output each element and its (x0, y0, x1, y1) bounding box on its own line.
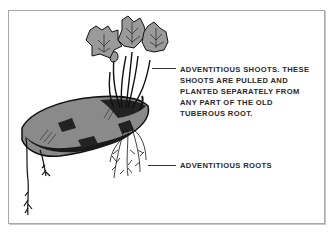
shoots-label-line: TUBEROUS ROOT. (180, 108, 309, 119)
shoots-label-line: ANY PART OF THE OLD (180, 97, 309, 108)
tuber-icon (22, 96, 149, 156)
shoots-label-line: ADVENTITIOUS SHOOTS. THESE (180, 64, 309, 75)
roots-leader-line (148, 165, 176, 166)
shoots-label-line: SHOOTS ARE PULLED AND (180, 75, 309, 86)
shoots-leader-line (152, 68, 176, 69)
adventitious-shoots-label: ADVENTITIOUS SHOOTS. THESE SHOOTS ARE PU… (180, 64, 309, 119)
adventitious-roots-label: ADVENTITIOUS ROOTS (180, 160, 272, 171)
shoots-label-line: PLANTED SEPARATELY FROM (180, 86, 309, 97)
